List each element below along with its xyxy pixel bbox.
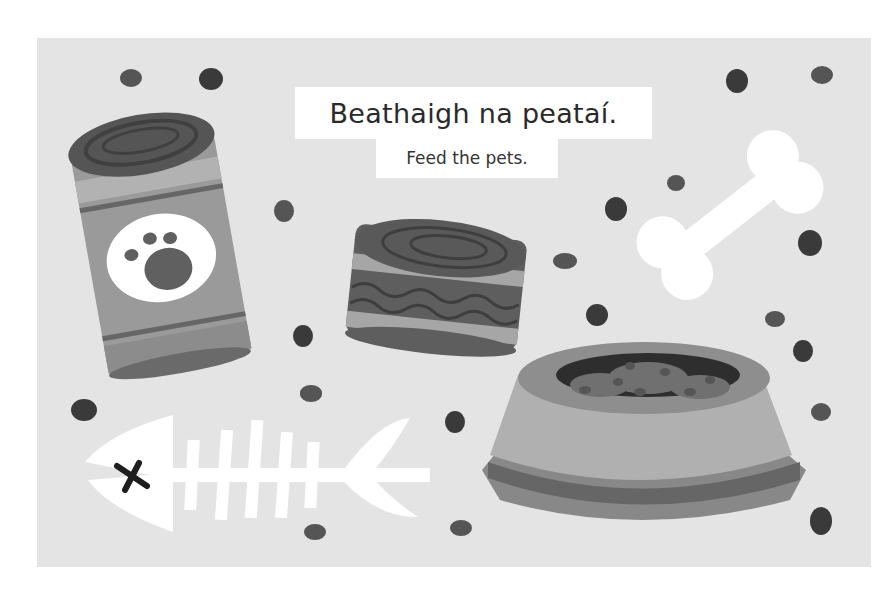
tall-pet-food-can: [63, 102, 254, 386]
activity-page: Beathaigh na peataí. Feed the pets.: [0, 0, 896, 605]
pet-food-bowl: [482, 342, 806, 520]
title-banner: Beathaigh na peataí.: [295, 87, 652, 139]
dog-bone-icon: [626, 120, 834, 311]
fish-skeleton-icon: [85, 415, 430, 532]
subtitle-banner: Feed the pets.: [376, 138, 558, 178]
short-pet-food-can: [344, 211, 529, 362]
page-title: Beathaigh na peataí.: [329, 98, 617, 129]
page-subtitle: Feed the pets.: [406, 148, 527, 168]
